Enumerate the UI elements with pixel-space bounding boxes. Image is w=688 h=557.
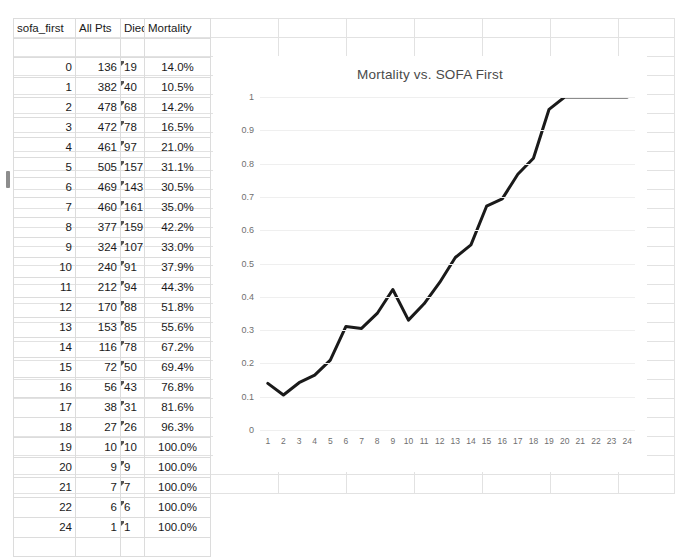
table-row[interactable]: 932410733.0% <box>14 238 211 258</box>
cell-all-pts[interactable]: 7 <box>76 478 121 498</box>
cell-mortality[interactable]: 42.2% <box>145 218 211 238</box>
cell-sofa-first[interactable]: 8 <box>14 218 76 238</box>
cell-sofa-first[interactable]: 15 <box>14 358 76 378</box>
table-row-spacer-top[interactable] <box>14 39 211 58</box>
cell-all-pts[interactable]: 10 <box>76 438 121 458</box>
cell-sofa-first[interactable]: 5 <box>14 158 76 178</box>
cell-died[interactable]: 97 <box>121 138 145 158</box>
cell-died[interactable]: 1 <box>121 518 145 538</box>
table-row[interactable]: 18272696.3% <box>14 418 211 438</box>
cell-mortality[interactable]: 21.0% <box>145 138 211 158</box>
table-cell-empty[interactable] <box>145 39 211 58</box>
cell-mortality[interactable]: 81.6% <box>145 398 211 418</box>
cell-died[interactable]: 7 <box>121 478 145 498</box>
cell-mortality[interactable]: 100.0% <box>145 518 211 538</box>
table-row[interactable]: 2411100.0% <box>14 518 211 538</box>
cell-died[interactable]: 157 <box>121 158 145 178</box>
cell-sofa-first[interactable]: 14 <box>14 338 76 358</box>
table-row[interactable]: 837715942.2% <box>14 218 211 238</box>
table-row[interactable]: 646914330.5% <box>14 178 211 198</box>
cell-sofa-first[interactable]: 19 <box>14 438 76 458</box>
cell-died[interactable]: 9 <box>121 458 145 478</box>
table-row[interactable]: 24786814.2% <box>14 98 211 118</box>
cell-all-pts[interactable]: 153 <box>76 318 121 338</box>
cell-died[interactable]: 85 <box>121 318 145 338</box>
cell-mortality[interactable]: 16.5% <box>145 118 211 138</box>
mortality-chart[interactable]: Mortality vs. SOFA First 00.10.20.30.40.… <box>213 56 647 472</box>
table-row[interactable]: 112129444.3% <box>14 278 211 298</box>
cell-sofa-first[interactable]: 1 <box>14 78 76 98</box>
cell-mortality[interactable]: 67.2% <box>145 338 211 358</box>
table-cell-empty[interactable] <box>121 538 145 557</box>
cell-sofa-first[interactable]: 16 <box>14 378 76 398</box>
cell-died[interactable]: 19 <box>121 58 145 78</box>
cell-all-pts[interactable]: 469 <box>76 178 121 198</box>
table-row[interactable]: 746016135.0% <box>14 198 211 218</box>
table-row[interactable]: 2099100.0% <box>14 458 211 478</box>
cell-all-pts[interactable]: 478 <box>76 98 121 118</box>
cell-mortality[interactable]: 35.0% <box>145 198 211 218</box>
cell-died[interactable]: 26 <box>121 418 145 438</box>
cell-sofa-first[interactable]: 3 <box>14 118 76 138</box>
cell-died[interactable]: 107 <box>121 238 145 258</box>
cell-sofa-first[interactable]: 22 <box>14 498 76 518</box>
table-row[interactable]: 15725069.4% <box>14 358 211 378</box>
cell-mortality[interactable]: 100.0% <box>145 458 211 478</box>
column-header-sofa-first[interactable]: sofa_first <box>14 19 76 39</box>
cell-died[interactable]: 6 <box>121 498 145 518</box>
cell-mortality[interactable]: 55.6% <box>145 318 211 338</box>
cell-died[interactable]: 10 <box>121 438 145 458</box>
cell-died[interactable]: 161 <box>121 198 145 218</box>
table-cell-empty[interactable] <box>145 538 211 557</box>
cell-mortality[interactable]: 14.2% <box>145 98 211 118</box>
cell-mortality[interactable]: 33.0% <box>145 238 211 258</box>
cell-died[interactable]: 31 <box>121 398 145 418</box>
cell-mortality[interactable]: 100.0% <box>145 478 211 498</box>
cell-died[interactable]: 43 <box>121 378 145 398</box>
cell-sofa-first[interactable]: 2 <box>14 98 76 118</box>
cell-sofa-first[interactable]: 4 <box>14 138 76 158</box>
column-header-mortality[interactable]: Mortality <box>145 19 211 39</box>
cell-mortality[interactable]: 96.3% <box>145 418 211 438</box>
cell-died[interactable]: 78 <box>121 338 145 358</box>
cell-sofa-first[interactable]: 18 <box>14 418 76 438</box>
cell-sofa-first[interactable]: 21 <box>14 478 76 498</box>
cell-all-pts[interactable]: 240 <box>76 258 121 278</box>
table-cell-empty[interactable] <box>76 538 121 557</box>
cell-mortality[interactable]: 100.0% <box>145 438 211 458</box>
cell-sofa-first[interactable]: 6 <box>14 178 76 198</box>
cell-all-pts[interactable]: 472 <box>76 118 121 138</box>
table-row[interactable]: 2266100.0% <box>14 498 211 518</box>
cell-mortality[interactable]: 44.3% <box>145 278 211 298</box>
cell-mortality[interactable]: 76.8% <box>145 378 211 398</box>
table-row[interactable]: 44619721.0% <box>14 138 211 158</box>
cell-died[interactable]: 50 <box>121 358 145 378</box>
cell-died[interactable]: 91 <box>121 258 145 278</box>
cell-sofa-first[interactable]: 0 <box>14 58 76 78</box>
table-cell-empty[interactable] <box>14 538 76 557</box>
cell-all-pts[interactable]: 170 <box>76 298 121 318</box>
cell-mortality[interactable]: 37.9% <box>145 258 211 278</box>
column-header-died[interactable]: Died <box>121 19 145 39</box>
cell-died[interactable]: 94 <box>121 278 145 298</box>
cell-died[interactable]: 78 <box>121 118 145 138</box>
table-row[interactable]: 131538555.6% <box>14 318 211 338</box>
cell-all-pts[interactable]: 324 <box>76 238 121 258</box>
cell-sofa-first[interactable]: 17 <box>14 398 76 418</box>
cell-sofa-first[interactable]: 11 <box>14 278 76 298</box>
table-cell-empty[interactable] <box>76 39 121 58</box>
column-header-all-pts[interactable]: All Pts <box>76 19 121 39</box>
cell-died[interactable]: 68 <box>121 98 145 118</box>
cell-mortality[interactable]: 30.5% <box>145 178 211 198</box>
cell-mortality[interactable]: 51.8% <box>145 298 211 318</box>
cell-all-pts[interactable]: 505 <box>76 158 121 178</box>
table-row[interactable]: 191010100.0% <box>14 438 211 458</box>
cell-all-pts[interactable]: 460 <box>76 198 121 218</box>
cell-all-pts[interactable]: 377 <box>76 218 121 238</box>
table-row-spacer-bottom[interactable] <box>14 538 211 557</box>
cell-sofa-first[interactable]: 7 <box>14 198 76 218</box>
cell-sofa-first[interactable]: 9 <box>14 238 76 258</box>
table-row[interactable]: 01361914.0% <box>14 58 211 78</box>
cell-died[interactable]: 88 <box>121 298 145 318</box>
table-row[interactable]: 121708851.8% <box>14 298 211 318</box>
